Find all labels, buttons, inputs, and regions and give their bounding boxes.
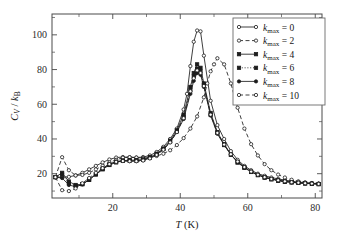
y-tick-label: 60 bbox=[37, 99, 47, 110]
data-marker bbox=[101, 166, 104, 169]
data-marker bbox=[189, 127, 192, 130]
data-marker bbox=[60, 156, 63, 159]
data-marker bbox=[168, 141, 171, 144]
y-tick-label: 20 bbox=[37, 168, 47, 179]
x-tick-label: 40 bbox=[175, 202, 185, 213]
data-marker bbox=[74, 187, 77, 190]
data-marker bbox=[101, 161, 104, 164]
data-marker bbox=[216, 57, 219, 60]
data-marker bbox=[254, 53, 257, 56]
data-marker bbox=[202, 84, 205, 87]
data-marker bbox=[81, 173, 84, 176]
data-marker bbox=[276, 179, 279, 182]
chart-figure: 2040608020406080100 T (K) CV / kB kmax =… bbox=[0, 0, 337, 242]
data-marker bbox=[276, 173, 279, 176]
data-marker bbox=[249, 170, 252, 173]
x-axis-title: T (K) bbox=[175, 219, 199, 231]
data-marker bbox=[60, 176, 63, 179]
data-marker bbox=[135, 160, 138, 163]
data-marker bbox=[94, 168, 97, 171]
data-marker bbox=[317, 182, 320, 185]
data-marker bbox=[229, 82, 232, 85]
data-marker bbox=[175, 143, 178, 146]
x-tick-label: 60 bbox=[243, 202, 253, 213]
x-tick-label: 20 bbox=[108, 202, 118, 213]
data-marker bbox=[195, 29, 198, 32]
data-marker bbox=[222, 143, 225, 146]
data-marker bbox=[222, 63, 225, 66]
data-marker bbox=[192, 71, 195, 74]
data-marker bbox=[121, 159, 124, 162]
data-marker bbox=[87, 171, 90, 174]
data-marker bbox=[114, 160, 117, 163]
data-marker bbox=[168, 149, 171, 152]
data-marker bbox=[195, 69, 198, 72]
data-marker bbox=[236, 106, 239, 109]
data-marker bbox=[209, 99, 212, 102]
data-marker bbox=[243, 165, 246, 168]
data-marker bbox=[254, 66, 257, 69]
data-marker bbox=[222, 137, 225, 140]
data-marker bbox=[209, 70, 212, 73]
data-marker bbox=[148, 157, 151, 160]
data-marker bbox=[189, 90, 192, 93]
data-marker bbox=[254, 39, 257, 42]
data-marker bbox=[254, 93, 257, 96]
data-marker bbox=[182, 136, 185, 139]
y-tick-label: 40 bbox=[37, 133, 47, 144]
data-marker bbox=[297, 181, 300, 184]
data-marker bbox=[74, 174, 77, 177]
data-marker bbox=[283, 176, 286, 179]
data-marker bbox=[60, 173, 63, 176]
data-marker bbox=[202, 54, 205, 57]
data-marker bbox=[216, 123, 219, 126]
data-marker bbox=[206, 82, 209, 85]
data-marker bbox=[87, 168, 90, 171]
svg-text:CV / kB: CV / kB bbox=[9, 91, 22, 120]
data-marker bbox=[209, 113, 212, 116]
data-marker bbox=[263, 163, 266, 166]
data-marker bbox=[81, 182, 84, 185]
data-marker bbox=[87, 176, 90, 179]
data-marker bbox=[229, 153, 232, 156]
data-marker bbox=[155, 153, 158, 156]
data-marker bbox=[199, 66, 202, 69]
data-marker bbox=[256, 154, 259, 157]
data-marker bbox=[249, 143, 252, 146]
y-tick-label: 80 bbox=[37, 64, 47, 75]
data-marker bbox=[237, 25, 240, 28]
data-marker bbox=[270, 169, 273, 172]
data-marker bbox=[236, 160, 239, 163]
data-marker bbox=[237, 53, 240, 56]
data-marker bbox=[192, 77, 195, 80]
data-marker bbox=[141, 159, 144, 162]
data-marker bbox=[94, 164, 97, 167]
y-axis-title: CV / kB bbox=[9, 91, 22, 120]
data-marker bbox=[237, 39, 240, 42]
data-marker bbox=[254, 25, 257, 28]
data-marker bbox=[162, 148, 165, 151]
data-marker bbox=[67, 183, 70, 186]
data-marker bbox=[237, 66, 240, 69]
data-marker bbox=[263, 176, 266, 179]
data-marker bbox=[128, 160, 131, 163]
svg-text:T (K): T (K) bbox=[175, 219, 199, 231]
heat-capacity-plot: 2040608020406080100 T (K) CV / kB kmax =… bbox=[0, 0, 337, 242]
data-marker bbox=[199, 30, 202, 33]
legend: kmax = 0kmax = 2kmax = 4kmax = 6kmax = 8… bbox=[233, 18, 325, 105]
data-marker bbox=[195, 115, 198, 118]
data-marker bbox=[189, 64, 192, 67]
data-marker bbox=[94, 171, 97, 174]
data-marker bbox=[67, 169, 70, 172]
data-marker bbox=[202, 96, 205, 99]
data-marker bbox=[254, 80, 257, 83]
data-marker bbox=[67, 175, 70, 178]
data-marker bbox=[195, 63, 198, 66]
data-marker bbox=[54, 176, 57, 179]
data-marker bbox=[290, 181, 293, 184]
data-marker bbox=[270, 177, 273, 180]
data-marker bbox=[175, 130, 178, 133]
data-marker bbox=[237, 93, 240, 96]
data-marker bbox=[212, 63, 215, 66]
data-marker bbox=[256, 173, 259, 176]
